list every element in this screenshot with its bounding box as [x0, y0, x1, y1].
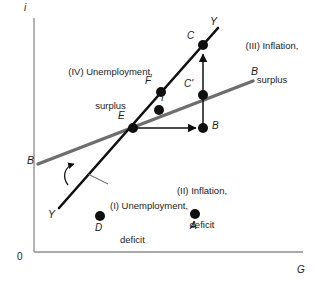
- quadrant-IV-line1: (IV) Unemployment,: [48, 66, 173, 77]
- point-C: [198, 40, 208, 50]
- curve-label-B-left: B: [27, 154, 34, 166]
- quadrant-I-leader-line: [88, 174, 108, 184]
- point-B: [198, 123, 208, 133]
- point-C-prime: [198, 90, 208, 100]
- quadrant-III-line1: (III) Inflation,: [231, 40, 313, 51]
- diagram-canvas: i G 0 Y Y B B E F I C C' B D A (IV) Unem…: [0, 0, 315, 290]
- point-label-B: B: [212, 120, 219, 132]
- y-axis-label: i: [24, 2, 26, 14]
- curve-label-Y-lower: Y: [48, 208, 55, 220]
- quadrant-I-line2: deficit: [120, 234, 214, 245]
- point-D: [95, 211, 105, 221]
- point-label-D: D: [95, 222, 102, 234]
- quadrant-III-line2: surplus: [231, 74, 313, 85]
- quadrant-label-IV: (IV) Unemployment, surplus: [48, 44, 173, 134]
- point-label-C-prime: C': [184, 78, 193, 90]
- point-label-C: C: [187, 30, 194, 42]
- x-axis-label: G: [297, 264, 305, 276]
- origin-label: 0: [17, 251, 23, 263]
- quadrant-label-III: (III) Inflation, surplus: [231, 18, 313, 108]
- rotation-arrow: [65, 164, 74, 185]
- quadrant-label-I: (I) Unemployment, deficit: [110, 178, 214, 268]
- curve-label-Y-upper: Y: [210, 15, 217, 27]
- quadrant-I-line1: (I) Unemployment,: [110, 200, 214, 211]
- quadrant-IV-line2: surplus: [48, 100, 173, 111]
